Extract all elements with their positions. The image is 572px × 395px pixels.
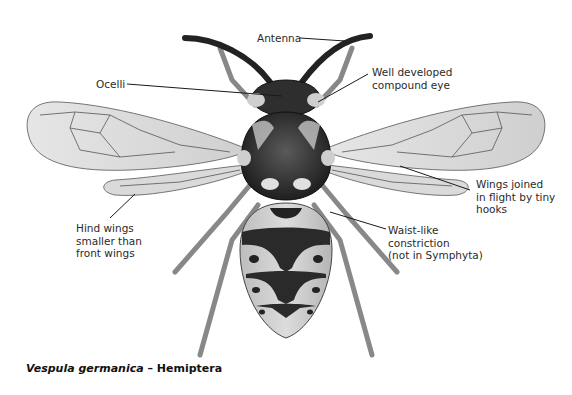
label-hind-wings: Hind wings smaller than front wings (76, 222, 142, 260)
label-waist: Waist-like constriction (not in Symphyta… (388, 224, 483, 262)
label-wings-joined: Wings joined in flight by tiny hooks (476, 178, 555, 216)
left-forewing (27, 102, 250, 170)
label-antenna: Antenna (257, 32, 301, 45)
right-forewing (322, 102, 545, 170)
figure-caption: Vespula germanica – Hemiptera (26, 362, 222, 375)
label-compound-eye: Well developed compound eye (372, 66, 452, 91)
order-name: Hemiptera (157, 362, 222, 375)
label-ocelli: Ocelli (96, 78, 125, 91)
species-name: Vespula germanica (26, 362, 144, 375)
